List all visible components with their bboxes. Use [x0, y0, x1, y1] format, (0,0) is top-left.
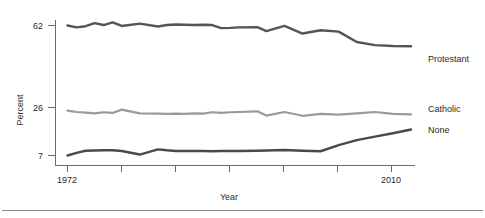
chart-background	[0, 0, 485, 218]
y-tick-label-26: 26	[33, 103, 43, 113]
line-chart-svg: 62 26 7 Percent 1972 2010 Year Protestan…	[0, 0, 485, 218]
x-tick-label-1972: 1972	[57, 175, 77, 185]
y-tick-label-7: 7	[38, 151, 43, 161]
y-tick-label-62: 62	[33, 21, 43, 31]
series-label-catholic: Catholic	[428, 104, 461, 114]
x-axis-title: Year	[220, 192, 238, 202]
series-label-none: None	[428, 125, 450, 135]
y-axis-title: Percent	[15, 94, 25, 126]
chart-figure: 62 26 7 Percent 1972 2010 Year Protestan…	[0, 0, 485, 218]
x-tick-label-2010: 2010	[381, 175, 401, 185]
series-label-protestant: Protestant	[428, 54, 470, 64]
